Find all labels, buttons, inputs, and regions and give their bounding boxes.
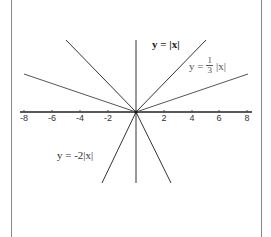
tick-label-2: 2 bbox=[161, 113, 166, 123]
origin-point bbox=[134, 110, 137, 113]
tick-label-8: 8 bbox=[244, 113, 249, 123]
label-y-abs-x: y = |x| bbox=[152, 38, 180, 50]
graph-canvas bbox=[0, 0, 271, 237]
tick-label-6: 6 bbox=[216, 113, 221, 123]
fraction-one-third: 1 3 bbox=[206, 56, 213, 75]
tick-label-neg6: -6 bbox=[48, 113, 56, 123]
tick-label-neg4: -4 bbox=[76, 113, 84, 123]
label-third-prefix: y = bbox=[189, 60, 203, 72]
tick-label-neg8: -8 bbox=[20, 113, 28, 123]
label-y-third-abs-x: y = 1 3 |x| bbox=[189, 56, 226, 75]
tick-label-neg2: -2 bbox=[104, 113, 112, 123]
label-third-suffix: |x| bbox=[216, 60, 226, 72]
tick-label-4: 4 bbox=[189, 113, 194, 123]
label-y-neg-2-abs-x: y = -2|x| bbox=[57, 149, 93, 161]
fraction-denominator: 3 bbox=[207, 66, 212, 75]
